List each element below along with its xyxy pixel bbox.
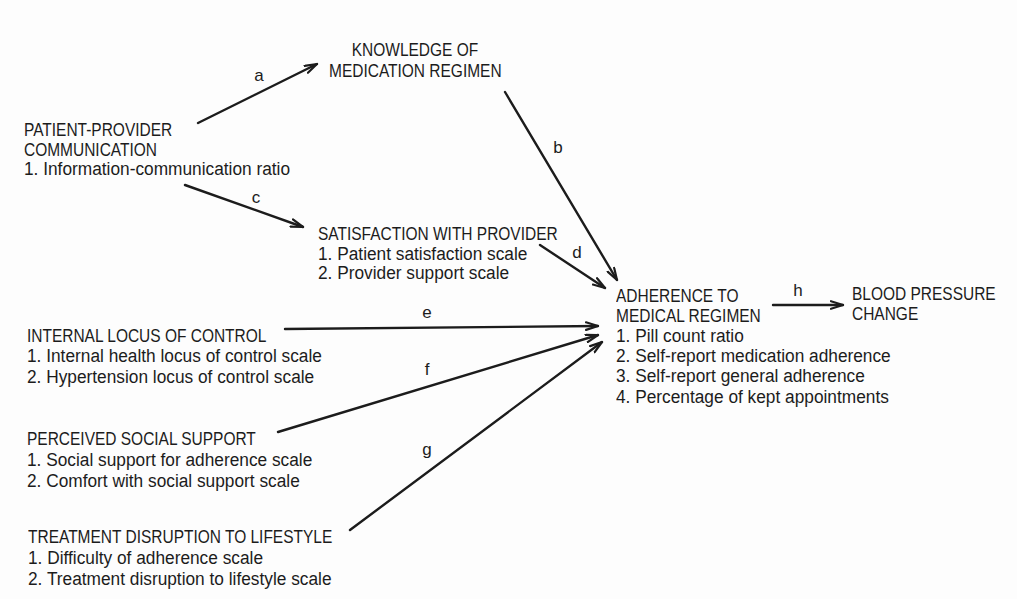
path-label-g: g <box>422 440 431 459</box>
node-title: BLOOD PRESSURE <box>852 284 996 304</box>
node-measure-item: 4. Percentage of kept appointments <box>616 387 891 407</box>
node-perceived-social-support: PERCEIVED SOCIAL SUPPORT 1. Social suppo… <box>27 429 324 492</box>
node-satisfaction-with-provider: SATISFACTION WITH PROVIDER 1. Patient sa… <box>318 225 597 284</box>
node-title: PATIENT-PROVIDER <box>24 121 262 141</box>
node-measure-item: 1. Social support for adherence scale <box>27 450 312 471</box>
node-measure-item: 3. Self-report general adherence <box>616 366 891 386</box>
node-title: ADHERENCE TO <box>616 286 862 306</box>
node-title: MEDICATION REGIMEN <box>329 61 501 82</box>
node-title: SATISFACTION WITH PROVIDER <box>318 225 558 245</box>
node-title: MEDICAL REGIMEN <box>616 306 862 326</box>
node-title: PERCEIVED SOCIAL SUPPORT <box>27 429 283 450</box>
path-label-b: b <box>553 138 562 157</box>
node-measure-item: 2. Self-report medication adherence <box>616 346 891 366</box>
node-measure-item: 1. Internal health locus of control scal… <box>27 346 322 367</box>
node-title: COMMUNICATION <box>24 141 262 161</box>
node-measure-item: 2. Provider support scale <box>318 264 586 284</box>
node-measure-item: 2. Hypertension locus of control scale <box>27 367 322 388</box>
path-label-e: e <box>422 303 431 322</box>
node-measure-item: 1. Pill count ratio <box>616 326 891 346</box>
node-measure-item: 1. Difficulty of adherence scale <box>28 548 368 569</box>
node-patient-provider-communication: PATIENT-PROVIDER COMMUNICATION 1. Inform… <box>24 121 301 180</box>
path-label-f: f <box>425 360 430 379</box>
node-measure-item: 1. Patient satisfaction scale <box>318 245 586 265</box>
arrow-c <box>185 185 303 227</box>
node-internal-locus-of-control: INTERNAL LOCUS OF CONTROL 1. Internal he… <box>27 326 334 388</box>
node-blood-pressure-change: BLOOD PRESSURE CHANGE <box>852 284 1017 324</box>
node-measure-item: 1. Information-communication ratio <box>24 160 290 180</box>
node-title: TREATMENT DISRUPTION TO LIFESTYLE <box>28 527 332 548</box>
arrow-g <box>350 342 602 530</box>
node-treatment-disruption-to-lifestyle: TREATMENT DISRUPTION TO LIFESTYLE 1. Dif… <box>28 527 382 590</box>
node-knowledge-of-medication-regimen: KNOWLEDGE OF MEDICATION REGIMEN <box>315 40 515 81</box>
node-title: CHANGE <box>852 304 996 324</box>
node-measure-item: 2. Comfort with social support scale <box>27 471 312 492</box>
node-title: INTERNAL LOCUS OF CONTROL <box>27 326 291 347</box>
node-title: KNOWLEDGE OF <box>329 40 501 61</box>
path-label-c: c <box>252 188 261 207</box>
node-measure-item: 2. Treatment disruption to lifestyle sca… <box>28 569 368 590</box>
path-label-a: a <box>254 66 264 85</box>
